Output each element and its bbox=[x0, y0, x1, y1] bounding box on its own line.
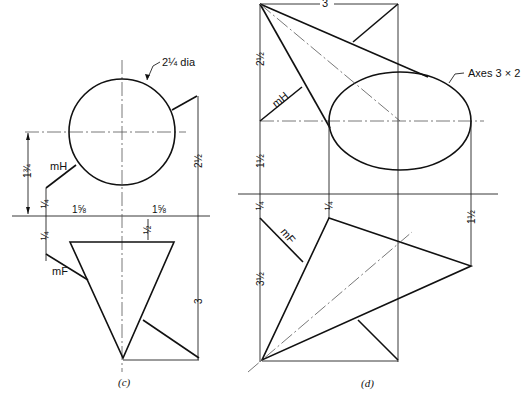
dim-left-lower: 3½ bbox=[255, 271, 266, 286]
arrow-down-icon bbox=[26, 207, 30, 214]
dim-left-quarter: ¼ bbox=[255, 201, 266, 210]
cone-outline-right-d bbox=[260, 4, 428, 77]
figure-c: 2¼ dia 1¾ mH ¼ ¼ mF 1⅝ 1⅝ ½ 2½ 3 (c) bbox=[12, 56, 210, 389]
ellipse-label: Axes 3 × 2 bbox=[468, 67, 520, 79]
figure-d: 3 mH Axes 3 × 2 2½ 1½ ¼ ¼ 3½ 1½ mF bbox=[238, 0, 520, 390]
dim-right-lower: 1½ bbox=[466, 209, 477, 224]
plane-f-trace-d bbox=[260, 218, 303, 262]
dim-gap-triangle: ½ bbox=[142, 225, 153, 234]
dim-vertical-left: 1¾ bbox=[22, 163, 33, 178]
dim-mid-quarter: ¼ bbox=[324, 201, 335, 210]
dim-left-middle: 1½ bbox=[255, 153, 266, 168]
axes-leader bbox=[449, 73, 464, 83]
diameter-label: 2¼ dia bbox=[162, 56, 196, 68]
plane-f-label-d: mF bbox=[278, 226, 298, 246]
plane-h-label-d: mH bbox=[270, 89, 291, 109]
dim-horizontal-left: 1⅝ bbox=[72, 204, 87, 215]
arrow-up-icon bbox=[26, 133, 30, 140]
plane-f-label-c: mF bbox=[52, 265, 68, 277]
tangent-mark-top-d bbox=[353, 4, 398, 42]
technical-drawing: 2¼ dia 1¾ mH ¼ ¼ mF 1⅝ 1⅝ ½ 2½ 3 (c) bbox=[0, 0, 529, 402]
caption-d: (d) bbox=[361, 377, 374, 390]
dim-right-lower: 3 bbox=[193, 298, 204, 304]
dim-left-upper: 2½ bbox=[255, 51, 266, 66]
plane-h-label-c: mH bbox=[50, 160, 67, 172]
caption-c: (c) bbox=[118, 376, 131, 389]
cone-axis-front-d bbox=[248, 232, 412, 372]
tangent-mark-lower-c bbox=[143, 320, 199, 358]
leader-arrow-icon bbox=[145, 74, 150, 80]
dim-quarter-above: ¼ bbox=[40, 199, 51, 208]
tangent-mark-c bbox=[172, 96, 197, 110]
tangent-mark-lower-d bbox=[358, 320, 398, 360]
dim-right-upper: 2½ bbox=[193, 153, 204, 168]
dim-top: 3 bbox=[322, 0, 328, 9]
cone-outline-left-d bbox=[260, 4, 330, 128]
dim-quarter-below: ¼ bbox=[40, 231, 51, 240]
dia-leader bbox=[147, 62, 160, 80]
dim-horizontal-right: 1⅝ bbox=[152, 204, 167, 215]
